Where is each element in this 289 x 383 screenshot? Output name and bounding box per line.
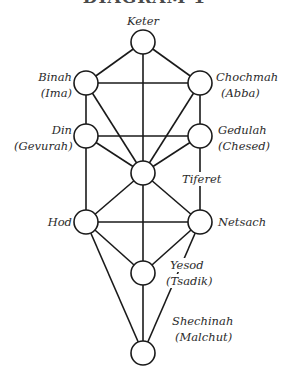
label-din: Din (14, 123, 72, 137)
label-keter: Keter (118, 14, 168, 28)
node-chochmah (188, 71, 212, 95)
label-netsach: Netsach (218, 215, 266, 229)
label-tiferet: Tiferet (180, 172, 223, 186)
node-hod (74, 210, 98, 234)
label-yesod: Yesod (168, 258, 206, 272)
node-binah (74, 71, 98, 95)
node-keter (131, 30, 155, 54)
label-din-sub: (Gevurah) (14, 139, 72, 153)
label-shechinah: Shechinah (170, 314, 235, 328)
label-chochmah-sub: (Abba) (221, 86, 260, 100)
edges-group (86, 42, 200, 353)
edge-hod-shechinah (86, 222, 143, 353)
label-gedulah: Gedulah (218, 123, 267, 137)
node-tiferet (131, 161, 155, 185)
node-gedulah (188, 124, 212, 148)
node-din (74, 124, 98, 148)
node-netsach (188, 210, 212, 234)
label-binah: Binah (34, 70, 72, 84)
label-chochmah: Chochmah (216, 70, 278, 84)
label-shechinah-sub: (Malchut) (173, 330, 234, 344)
tree-of-life-diagram (0, 0, 289, 383)
node-shechinah (131, 341, 155, 365)
label-gedulah-sub: (Chesed) (218, 139, 270, 153)
node-yesod (131, 261, 155, 285)
label-yesod-sub: (Tsadik) (164, 274, 215, 288)
label-hod: Hod (36, 215, 72, 229)
label-binah-sub: (Ima) (34, 86, 72, 100)
